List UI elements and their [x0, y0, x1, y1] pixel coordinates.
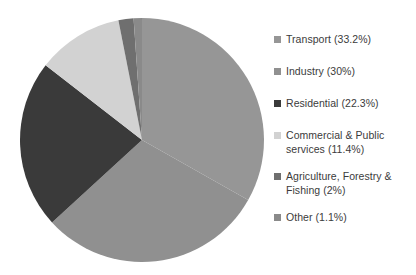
legend: Transport (33.2%) Industry (30%) Residen… [274, 32, 416, 242]
legend-swatch-icon-commercial-public-services [274, 132, 281, 139]
legend-label-agriculture-forestry-fishing: Agriculture, Forestry & Fishing (2%) [286, 169, 392, 197]
legend-swatch-icon-industry [274, 68, 281, 75]
pie-slice-group [20, 18, 264, 262]
legend-item-other[interactable]: Other (1.1%) [274, 210, 416, 224]
legend-item-transport[interactable]: Transport (33.2%) [274, 32, 416, 46]
legend-label-residential: Residential (22.3%) [286, 96, 379, 110]
legend-item-agriculture-forestry-fishing[interactable]: Agriculture, Forestry & Fishing (2%) [274, 169, 416, 197]
legend-swatch-icon-other [274, 214, 281, 221]
legend-item-commercial-public-services[interactable]: Commercial & Public services (11.4%) [274, 128, 416, 156]
pie-svg [0, 0, 275, 275]
legend-label-transport: Transport (33.2%) [286, 32, 371, 46]
legend-swatch-icon-residential [274, 100, 281, 107]
legend-item-industry[interactable]: Industry (30%) [274, 64, 416, 78]
pie-plot-area [0, 0, 275, 275]
legend-item-residential[interactable]: Residential (22.3%) [274, 96, 416, 110]
legend-label-commercial-public-services: Commercial & Public services (11.4%) [286, 128, 384, 156]
legend-label-other: Other (1.1%) [286, 210, 347, 224]
legend-swatch-icon-agriculture-forestry-fishing [274, 173, 281, 180]
legend-swatch-icon-transport [274, 36, 281, 43]
pie-chart: Transport (33.2%) Industry (30%) Residen… [0, 0, 416, 275]
legend-label-industry: Industry (30%) [286, 64, 355, 78]
